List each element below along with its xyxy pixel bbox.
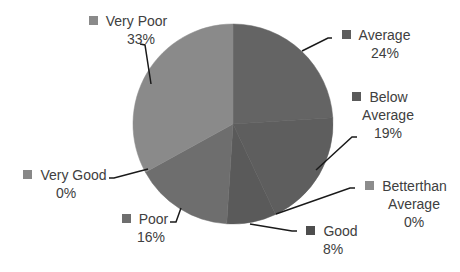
label-value: 19% [340, 124, 420, 142]
label-value: 33% [80, 30, 176, 48]
label-name: Good [323, 223, 357, 239]
label-value: 16% [118, 228, 172, 246]
label-name: Very Poor [106, 13, 167, 29]
leader-line-very-good [109, 169, 148, 178]
label-value: 0% [358, 213, 454, 231]
data-label-very-poor: Very Poor 33% [80, 12, 176, 48]
label-name-2: Average [340, 106, 420, 124]
data-label-below-average: Below Average 19% [340, 88, 420, 142]
legend-swatch-poor [122, 214, 131, 223]
legend-swatch-average [342, 30, 351, 39]
label-value: 8% [302, 240, 362, 258]
pie-slice-average [233, 24, 333, 124]
legend-swatch-better-than-average [365, 181, 374, 190]
label-name: Betterthan [382, 178, 447, 194]
label-name: Below [369, 89, 407, 105]
label-value: 0% [22, 184, 108, 202]
data-label-good: Good 8% [302, 222, 362, 258]
legend-swatch-very-good [23, 170, 32, 179]
data-label-poor: Poor 16% [118, 210, 172, 246]
leader-line-good [250, 224, 297, 231]
legend-swatch-good [306, 226, 315, 235]
label-name-2: Average [358, 195, 454, 213]
label-name: Very Good [40, 167, 106, 183]
data-label-very-good: Very Good 0% [22, 166, 108, 202]
data-label-average: Average 24% [338, 26, 414, 62]
label-value: 24% [338, 44, 414, 62]
label-name: Average [359, 27, 411, 43]
pie-slices [133, 24, 333, 224]
leader-line-average [302, 38, 332, 51]
label-name: Poor [139, 211, 169, 227]
legend-swatch-very-poor [89, 16, 98, 25]
legend-swatch-below-average [352, 92, 361, 101]
data-label-better-than-average: Betterthan Average 0% [358, 177, 454, 231]
